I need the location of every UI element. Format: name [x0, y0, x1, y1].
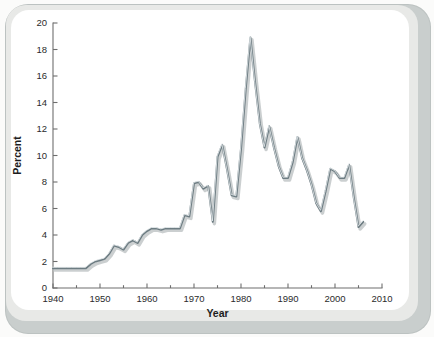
y-tick-label: 18 [36, 44, 47, 55]
x-tick-label: 1990 [277, 293, 298, 304]
x-tick-label: 1970 [183, 293, 204, 304]
y-tick-label: 20 [36, 17, 47, 28]
y-tick-label: 4 [42, 229, 47, 240]
y-tick-label: 10 [36, 150, 47, 161]
x-tick-label: 2000 [324, 293, 345, 304]
chart-series [53, 37, 365, 270]
x-axis-title: Year [206, 307, 228, 319]
x-tick-label: 1980 [230, 293, 251, 304]
chart-plot-area: 0246810121416182019401950196019701980199… [0, 0, 434, 337]
chart-axes: 0246810121416182019401950196019701980199… [36, 17, 392, 304]
series-line-percent [53, 38, 363, 269]
y-tick-label: 0 [42, 282, 47, 293]
y-tick-label: 2 [42, 256, 47, 267]
y-tick-label: 14 [36, 97, 47, 108]
y-tick-label: 8 [42, 176, 47, 187]
y-tick-label: 12 [36, 123, 47, 134]
series-highlight [53, 37, 363, 268]
series-shadow [55, 40, 365, 271]
y-axis-title: Percent [11, 136, 23, 175]
figure-page: 0246810121416182019401950196019701980199… [0, 0, 434, 337]
x-tick-label: 2010 [371, 293, 392, 304]
y-tick-label: 16 [36, 70, 47, 81]
line-chart: 0246810121416182019401950196019701980199… [0, 0, 434, 337]
y-tick-label: 6 [42, 203, 47, 214]
x-tick-label: 1960 [136, 293, 157, 304]
x-tick-label: 1950 [89, 293, 110, 304]
x-tick-label: 1940 [42, 293, 63, 304]
